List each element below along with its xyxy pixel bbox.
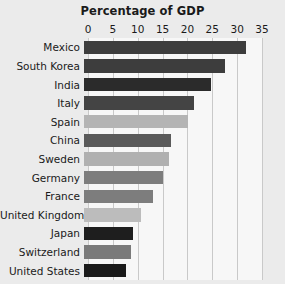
bar <box>84 59 225 72</box>
category-label: Italy <box>0 97 84 109</box>
bar <box>84 208 141 221</box>
x-tick-label-20: 20 <box>181 23 194 35</box>
bar-row: Germany <box>0 168 285 187</box>
category-label: France <box>0 190 84 202</box>
bar-track <box>84 243 258 262</box>
bar <box>84 152 169 165</box>
x-tick-label-35: 35 <box>255 23 268 35</box>
bar <box>84 96 194 109</box>
bar-track <box>84 150 258 169</box>
gdp-percentage-bar-chart: Percentage of GDP 05101520253035 MexicoS… <box>0 0 285 284</box>
bar <box>84 190 153 203</box>
bar-row: Mexico <box>0 38 285 57</box>
bar <box>84 171 163 184</box>
category-label: United States <box>0 265 84 277</box>
bar <box>84 41 246 54</box>
bar-row: United States <box>0 261 285 280</box>
bar-row: India <box>0 75 285 94</box>
x-tick-label-5: 5 <box>110 23 117 35</box>
x-tick-label-30: 30 <box>230 23 243 35</box>
bar-track <box>84 206 258 225</box>
bar-track <box>84 168 258 187</box>
bar <box>84 227 133 240</box>
x-tick-label-25: 25 <box>206 23 219 35</box>
bar-track <box>84 38 258 57</box>
category-label: Japan <box>0 227 84 239</box>
category-label: United Kingdom <box>0 209 84 221</box>
bar-row: South Korea <box>0 57 285 76</box>
bar-track <box>84 187 258 206</box>
bar <box>84 78 211 91</box>
bar-track <box>84 261 258 280</box>
category-label: India <box>0 79 84 91</box>
category-label: Spain <box>0 116 84 128</box>
chart-title: Percentage of GDP <box>0 4 285 18</box>
bar <box>84 134 171 147</box>
bar-track <box>84 131 258 150</box>
x-axis-tick-labels: 05101520253035 <box>88 23 262 37</box>
bar <box>84 245 131 258</box>
x-tick-label-0: 0 <box>85 23 92 35</box>
bar-row: Japan <box>0 224 285 243</box>
category-label: Switzerland <box>0 246 84 258</box>
bar-track <box>84 94 258 113</box>
bar-row: Switzerland <box>0 243 285 262</box>
bar <box>84 264 126 277</box>
bar-row: France <box>0 187 285 206</box>
bar-rows: MexicoSouth KoreaIndiaItalySpainChinaSwe… <box>0 38 285 280</box>
bar <box>84 115 188 128</box>
bar-row: United Kingdom <box>0 206 285 225</box>
category-label: South Korea <box>0 60 84 72</box>
bar-row: China <box>0 131 285 150</box>
category-label: Sweden <box>0 153 84 165</box>
bar-row: Sweden <box>0 150 285 169</box>
bar-track <box>84 57 258 76</box>
bar-track <box>84 224 258 243</box>
bar-row: Spain <box>0 112 285 131</box>
x-tick-label-15: 15 <box>156 23 169 35</box>
bar-row: Italy <box>0 94 285 113</box>
bar-track <box>84 75 258 94</box>
category-label: Germany <box>0 172 84 184</box>
category-label: Mexico <box>0 41 84 53</box>
bar-track <box>84 112 258 131</box>
x-tick-label-10: 10 <box>131 23 144 35</box>
category-label: China <box>0 134 84 146</box>
